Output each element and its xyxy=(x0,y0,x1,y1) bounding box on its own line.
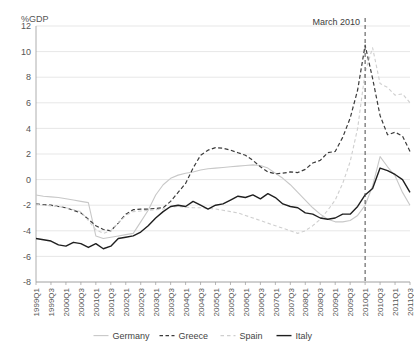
legend-label-germany: Germany xyxy=(113,331,151,341)
x-tick-label: 2007Q3 xyxy=(287,287,296,316)
series-line-greece xyxy=(36,45,410,231)
x-tick-label: 2008Q3 xyxy=(316,287,325,316)
annotation-group: March 2010 xyxy=(313,17,366,282)
y-tick-label: -4 xyxy=(23,226,31,236)
x-tick-label: 2006Q3 xyxy=(257,287,266,316)
x-tick-label: 2004Q1 xyxy=(182,287,191,316)
y-tick-label: -2 xyxy=(23,200,31,210)
x-tick-label: 2010Q1 xyxy=(361,287,370,316)
data-series-group xyxy=(36,45,410,249)
y-tick-label: -6 xyxy=(23,252,31,262)
x-tick-label: 2009Q1 xyxy=(331,287,340,316)
x-tick-label: 2000Q3 xyxy=(77,287,86,316)
x-tick-label: 2003Q1 xyxy=(152,287,161,316)
x-tick-label: 2002Q1 xyxy=(122,287,131,316)
x-tick-label: 1999Q3 xyxy=(47,287,56,316)
y-tick-label: 4 xyxy=(26,124,31,134)
x-tick-label: 2005Q3 xyxy=(227,287,236,316)
x-tick-label: 2007Q1 xyxy=(272,287,281,316)
x-tick-label: 2001Q3 xyxy=(107,287,116,316)
x-tick-label: 2000Q1 xyxy=(62,287,71,316)
x-tick-label: 1999Q1 xyxy=(32,287,41,316)
legend-label-spain: Spain xyxy=(240,331,263,341)
x-tick-label: 2011Q3 xyxy=(406,287,414,315)
legend: GermanyGreeceSpainItaly xyxy=(94,331,313,341)
y-axis-tick-labels: -8-6-4-2024681012 xyxy=(21,21,31,287)
x-tick-label: 2010Q3 xyxy=(376,287,385,316)
x-tick-label: 2001Q1 xyxy=(92,287,101,316)
line-chart: -8-6-4-2024681012 1999Q11999Q32000Q12000… xyxy=(0,0,414,349)
series-line-germany xyxy=(36,157,410,239)
y-tick-label: 6 xyxy=(26,98,31,108)
x-tick-label: 2009Q3 xyxy=(346,287,355,316)
y-axis-unit-label: %GDP xyxy=(21,14,49,24)
x-axis xyxy=(36,282,410,285)
y-tick-label: 10 xyxy=(21,47,31,57)
y-tick-label: -8 xyxy=(23,277,31,287)
y-tick-label: 0 xyxy=(26,175,31,185)
x-tick-label: 2006Q1 xyxy=(242,287,251,316)
x-tick-label: 2011Q1 xyxy=(391,287,400,315)
y-tick-label: 2 xyxy=(26,149,31,159)
annotation-label: March 2010 xyxy=(313,17,361,27)
y-tick-label: 8 xyxy=(26,72,31,82)
chart-container: -8-6-4-2024681012 1999Q11999Q32000Q12000… xyxy=(0,0,414,349)
series-line-italy xyxy=(36,168,410,249)
gridlines xyxy=(36,26,410,282)
x-tick-label: 2002Q3 xyxy=(137,287,146,316)
x-axis-tick-labels: 1999Q11999Q32000Q12000Q32001Q12001Q32002… xyxy=(32,287,414,316)
legend-label-greece: Greece xyxy=(179,331,209,341)
legend-label-italy: Italy xyxy=(296,331,313,341)
x-tick-label: 2005Q1 xyxy=(212,287,221,316)
x-tick-label: 2004Q3 xyxy=(197,287,206,316)
x-tick-label: 2008Q1 xyxy=(301,287,310,316)
x-tick-label: 2003Q3 xyxy=(167,287,176,316)
